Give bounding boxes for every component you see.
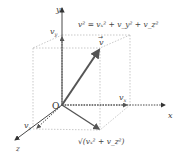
vz-label: vz [24, 121, 32, 131]
x-axis-label: x [168, 111, 173, 120]
vx-label: vx [119, 93, 127, 103]
velocity-vector [62, 50, 99, 105]
y-axis-label: y [55, 5, 61, 14]
magnitude-equation: v² = vₓ² + v_y² + v_z² [78, 20, 158, 29]
origin-label: O [52, 101, 59, 111]
projection-label: √(vₓ² + v_z²) [78, 137, 125, 146]
projection-vector [62, 105, 99, 129]
vy-label: vy [50, 27, 58, 38]
velocity-components-diagram: y x z O vy vx vz v → v² = vₓ² + v_y² + v… [0, 0, 177, 160]
vector-arrow-icon: → [98, 33, 103, 40]
z-axis-label: z [15, 145, 20, 153]
component-arrows [37, 37, 127, 128]
